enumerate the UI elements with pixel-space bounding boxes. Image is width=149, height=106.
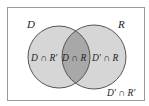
region-d-only-label: D ∩ R′	[30, 53, 58, 63]
region-intersection-label: D ∩ R	[61, 53, 86, 63]
region-outside-label: D′ ∩ R′	[106, 88, 136, 98]
venn-diagram: D R D ∩ R′ D ∩ R D′ ∩ R D′ ∩ R′	[0, 0, 149, 106]
region-r-only-label: D′ ∩ R	[91, 53, 119, 63]
set-d-label: D	[26, 18, 35, 30]
set-r-label: R	[117, 18, 125, 30]
